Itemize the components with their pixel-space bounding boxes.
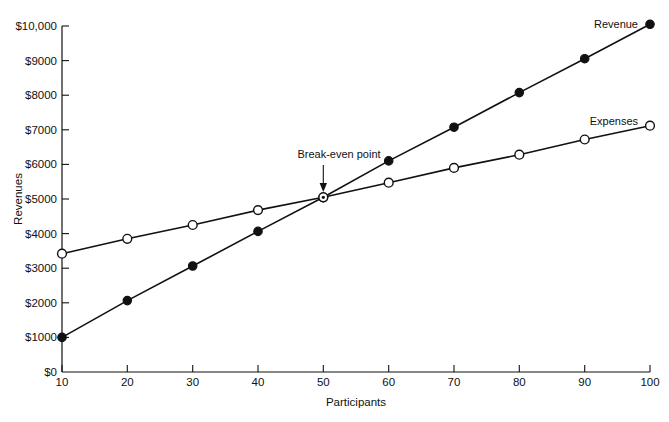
revenue-point: [581, 55, 589, 63]
revenue-point: [515, 88, 523, 96]
y-tick-label: $1000: [25, 331, 57, 343]
revenue-line: [62, 24, 650, 337]
revenue-series-label: Revenue: [594, 18, 638, 30]
x-tick-label: 80: [513, 376, 526, 388]
breakeven-point-center: [322, 196, 325, 199]
revenue-point: [450, 123, 458, 131]
x-tick-label: 50: [317, 376, 330, 388]
x-tick-label: 20: [121, 376, 134, 388]
expenses-point: [384, 178, 393, 187]
revenue-point: [189, 262, 197, 270]
y-tick-label: $2000: [25, 297, 57, 309]
revenue-point: [123, 296, 131, 304]
series-expenses: Expenses: [58, 115, 655, 258]
y-tick-label: $6000: [25, 158, 57, 170]
expenses-point: [515, 150, 524, 159]
expenses-point: [580, 135, 589, 144]
expenses-series-label: Expenses: [590, 115, 639, 127]
chart-page: $10,000 $9000 $8000 $7000 $6000 $5000 $4…: [0, 0, 669, 422]
y-tick-label: $9000: [25, 55, 57, 67]
expenses-point: [254, 206, 263, 215]
x-tick-label: 90: [578, 376, 591, 388]
breakeven-annotation-label: Break-even point: [297, 148, 380, 160]
series-revenue: Revenue: [58, 18, 654, 342]
x-tick-label: 60: [382, 376, 395, 388]
y-tick-label: $7000: [25, 124, 57, 136]
x-tick-label: 10: [56, 376, 69, 388]
revenue-point: [646, 20, 654, 28]
y-tick-label: $8000: [25, 89, 57, 101]
expenses-point: [123, 234, 132, 243]
y-tick-marks: [62, 26, 69, 337]
x-tick-labels: 10 20 30 40 50 60 70 80 90 100: [56, 376, 660, 388]
y-tick-label: $4000: [25, 228, 57, 240]
expenses-point: [646, 121, 655, 130]
expenses-point: [450, 164, 459, 173]
axes: [62, 26, 650, 372]
revenue-point: [385, 157, 393, 165]
revenue-point: [254, 227, 262, 235]
expenses-point: [58, 249, 67, 258]
x-tick-label: 30: [186, 376, 199, 388]
x-tick-label: 100: [640, 376, 659, 388]
x-tick-label: 70: [448, 376, 461, 388]
break-even-line-chart: $10,000 $9000 $8000 $7000 $6000 $5000 $4…: [0, 0, 669, 422]
revenue-point: [58, 333, 66, 341]
x-tick-marks: [62, 365, 650, 372]
y-axis-title: Revenues: [12, 173, 24, 225]
x-tick-label: 40: [252, 376, 265, 388]
expenses-point: [188, 221, 197, 230]
x-axis-title: Participants: [326, 396, 386, 408]
y-tick-label: $10,000: [15, 20, 57, 32]
y-tick-label: $5000: [25, 193, 57, 205]
expenses-line: [62, 126, 650, 254]
breakeven-arrow-head: [320, 183, 327, 192]
y-tick-label: $3000: [25, 262, 57, 274]
